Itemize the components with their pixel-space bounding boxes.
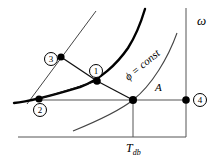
state-point-label-2: 2 — [33, 103, 47, 117]
psychrometric-chart-figure: ω Tdb A ϕ = const 3 1 2 4 — [0, 0, 219, 166]
chart-canvas — [0, 0, 219, 166]
point-a-marker — [129, 96, 137, 104]
x-axis-label: Tdb — [126, 142, 141, 157]
state-point-4-marker — [182, 96, 190, 104]
point-a-label: A — [155, 82, 162, 93]
state-point-3-marker — [57, 53, 64, 60]
state-point-label-3: 3 — [44, 52, 58, 66]
saturation-curve — [14, 9, 145, 103]
x-axis-label-main: T — [126, 141, 133, 155]
process-segment-2-1 — [39, 81, 97, 99]
state-point-2-marker — [35, 95, 42, 102]
state-point-label-4: 4 — [193, 93, 207, 107]
x-axis-label-sub: db — [133, 148, 141, 157]
state-point-1-marker — [93, 77, 101, 85]
process-segment-1-a — [97, 81, 133, 100]
y-axis-label: ω — [197, 14, 206, 27]
state-point-label-1: 1 — [89, 64, 103, 78]
